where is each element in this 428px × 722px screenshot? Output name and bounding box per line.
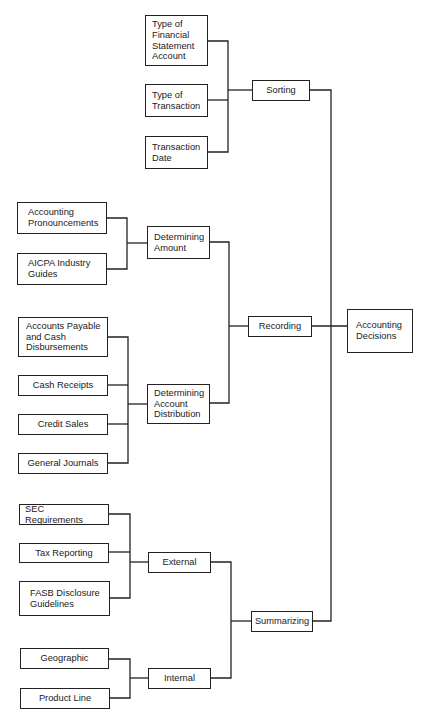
connector-accounts-payable (108, 337, 128, 463)
connector-type-fs-account (208, 41, 228, 152)
node-type-of-transaction: Type of Transaction (145, 84, 208, 117)
node-product-line: Product Line (20, 688, 110, 709)
connector-external-out (211, 562, 231, 678)
node-internal: Internal (148, 668, 211, 689)
connector-sec (109, 514, 130, 598)
node-external: External (148, 552, 211, 573)
node-cash-receipts: Cash Receipts (18, 375, 108, 396)
node-summarizing: Summarizing (251, 611, 313, 632)
node-sorting: Sorting (252, 80, 310, 101)
node-accounting-pronouncements: Accounting Pronouncements (17, 202, 107, 234)
node-accounting-decisions: Accounting Decisions (347, 309, 413, 353)
node-transaction-date: Transaction Date (145, 136, 208, 169)
node-determining-amount: Determining Amount (147, 226, 210, 259)
connector-sorting-out (310, 90, 331, 621)
node-determining-account-distribution: Determining Account Distribution (147, 384, 210, 424)
node-type-of-financial-statement-account: Type of Financial Statement Account (145, 15, 208, 66)
node-geographic: Geographic (20, 648, 109, 669)
node-credit-sales: Credit Sales (18, 414, 108, 435)
node-fasb-disclosure-guidelines: FASB Disclosure Guidelines (19, 581, 110, 616)
connector-amount-out (210, 242, 229, 403)
node-sec-requirements: SEC Requirements (19, 504, 109, 525)
node-accounts-payable: Accounts Payable and Cash Disbursements (18, 317, 108, 357)
node-recording: Recording (248, 316, 312, 337)
node-general-journals: General Journals (18, 453, 108, 474)
node-aicpa-industry-guides: AICPA Industry Guides (17, 253, 107, 285)
connector-pronouncements (107, 218, 127, 269)
connector-geographic (109, 659, 130, 698)
node-tax-reporting: Tax Reporting (19, 543, 109, 563)
